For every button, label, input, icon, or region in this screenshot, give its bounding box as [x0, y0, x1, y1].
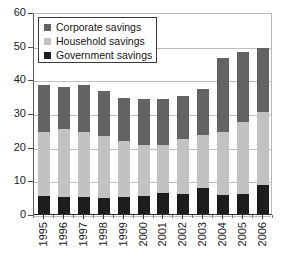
x-axis-minor-tick [33, 215, 34, 218]
bar-segment-corporate[interactable] [138, 99, 150, 145]
bar-group[interactable] [177, 96, 189, 214]
y-axis-tick-label: 30 [0, 108, 26, 119]
bar-group[interactable] [78, 85, 90, 214]
savings-stacked-bar-chart: 0102030405060 19951996199719981999200020… [0, 0, 282, 260]
bar-group[interactable] [217, 58, 229, 214]
bar-segment-government[interactable] [38, 196, 50, 214]
legend-item[interactable]: Government savings [44, 49, 152, 62]
bar-segment-corporate[interactable] [98, 91, 110, 136]
bar-segment-household[interactable] [197, 135, 209, 188]
y-axis-tick-label: 40 [0, 74, 26, 85]
bar-group[interactable] [38, 85, 50, 214]
x-axis-minor-tick [232, 215, 233, 218]
bar-segment-government[interactable] [177, 194, 189, 214]
x-axis-tick-label: 1997 [78, 222, 89, 246]
bar-segment-household[interactable] [157, 145, 169, 192]
x-axis-tick-mark [262, 215, 263, 219]
bar-segment-corporate[interactable] [157, 99, 169, 145]
legend-item-label: Household savings [56, 36, 145, 47]
bar-segment-corporate[interactable] [197, 89, 209, 134]
bar-segment-household[interactable] [78, 132, 90, 197]
x-axis-tick-label: 2000 [138, 222, 149, 246]
bar-segment-household[interactable] [138, 145, 150, 196]
bar-segment-corporate[interactable] [237, 52, 249, 121]
bar-segment-corporate[interactable] [177, 96, 189, 139]
legend-item-label: Government savings [56, 50, 152, 61]
y-axis-tick-label: 0 [0, 209, 26, 220]
x-axis-minor-tick [172, 215, 173, 218]
x-axis-tick-label: 2005 [237, 222, 248, 246]
x-axis-tick-label: 1996 [58, 222, 69, 246]
bar-group[interactable] [237, 52, 249, 214]
bar-group[interactable] [197, 89, 209, 214]
bar-segment-corporate[interactable] [118, 98, 130, 141]
x-axis-minor-tick [133, 215, 134, 218]
bar-segment-government[interactable] [237, 194, 249, 214]
x-axis-tick-label: 2006 [257, 222, 268, 246]
x-axis-tick-mark [143, 215, 144, 219]
x-axis-minor-tick [272, 215, 273, 218]
y-axis-tick-label: 60 [0, 7, 26, 18]
chart-legend: Corporate savingsHousehold savingsGovern… [38, 17, 157, 63]
x-axis-minor-tick [153, 215, 154, 218]
gridline-40 [34, 81, 271, 82]
bar-segment-household[interactable] [177, 139, 189, 194]
bar-segment-household[interactable] [58, 129, 70, 197]
bar-segment-corporate[interactable] [58, 87, 70, 129]
legend-item-label: Corporate savings [56, 22, 141, 33]
x-axis-tick-mark [123, 215, 124, 219]
bar-segment-government[interactable] [217, 195, 229, 214]
x-axis-tick-mark [83, 215, 84, 219]
legend-swatch-icon [44, 52, 51, 59]
bar-group[interactable] [257, 48, 269, 214]
bar-group[interactable] [157, 99, 169, 214]
x-axis-minor-tick [73, 215, 74, 218]
bar-segment-government[interactable] [157, 193, 169, 214]
bar-segment-government[interactable] [138, 196, 150, 214]
bar-segment-government[interactable] [58, 197, 70, 214]
x-axis-minor-tick [93, 215, 94, 218]
bar-segment-household[interactable] [98, 136, 110, 198]
x-axis-minor-tick [192, 215, 193, 218]
bar-segment-government[interactable] [197, 188, 209, 214]
x-axis-tick-mark [222, 215, 223, 219]
bar-segment-corporate[interactable] [78, 85, 90, 131]
x-axis-tick-mark [103, 215, 104, 219]
bar-group[interactable] [118, 98, 130, 214]
x-axis-tick-mark [242, 215, 243, 219]
legend-swatch-icon [44, 38, 51, 45]
legend-item[interactable]: Corporate savings [44, 21, 152, 34]
y-axis-tick-label: 20 [0, 142, 26, 153]
x-axis-tick-label: 2004 [217, 222, 228, 246]
bar-segment-government[interactable] [98, 198, 110, 214]
bar-group[interactable] [138, 99, 150, 214]
x-axis-tick-mark [202, 215, 203, 219]
x-axis-tick-mark [63, 215, 64, 219]
legend-swatch-icon [44, 24, 51, 31]
bar-segment-corporate[interactable] [217, 58, 229, 132]
y-axis-tick-label: 50 [0, 41, 26, 52]
bar-segment-household[interactable] [237, 122, 249, 194]
x-axis-tick-mark [162, 215, 163, 219]
bar-segment-corporate[interactable] [38, 85, 50, 132]
bar-segment-government[interactable] [78, 197, 90, 214]
bar-segment-government[interactable] [118, 197, 130, 214]
x-axis-tick-label: 2001 [157, 222, 168, 246]
bar-segment-household[interactable] [217, 132, 229, 195]
bar-group[interactable] [58, 87, 70, 214]
x-axis-tick-mark [43, 215, 44, 219]
x-axis-tick-label: 2003 [197, 222, 208, 246]
bar-segment-government[interactable] [257, 185, 269, 214]
x-axis-minor-tick [53, 215, 54, 218]
x-axis-minor-tick [252, 215, 253, 218]
bar-segment-household[interactable] [118, 141, 130, 197]
legend-item[interactable]: Household savings [44, 35, 152, 48]
bar-group[interactable] [98, 91, 110, 214]
x-axis-minor-tick [212, 215, 213, 218]
y-axis-tick-label: 10 [0, 175, 26, 186]
x-axis-tick-label: 1998 [98, 222, 109, 246]
bar-segment-household[interactable] [257, 112, 269, 185]
x-axis-tick-label: 1999 [118, 222, 129, 246]
bar-segment-corporate[interactable] [257, 48, 269, 112]
bar-segment-household[interactable] [38, 132, 50, 196]
